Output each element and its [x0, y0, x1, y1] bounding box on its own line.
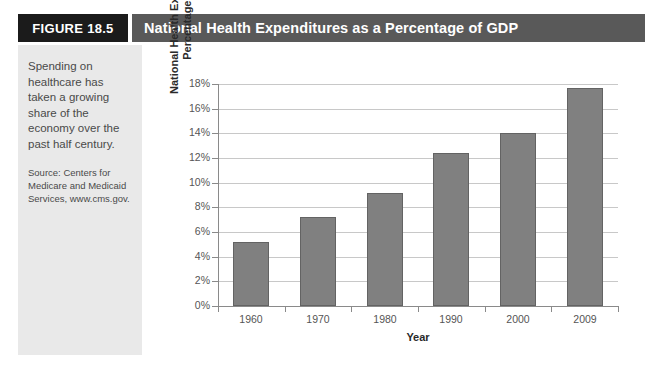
bar: [500, 133, 536, 306]
x-axis-tick: [485, 307, 486, 312]
x-axis-tick: [351, 307, 352, 312]
x-axis-tick: [551, 307, 552, 312]
y-axis-tick-label-wrap: 18%: [170, 84, 210, 85]
plot-area: [218, 84, 618, 306]
bar: [300, 217, 336, 306]
figure-titlebar: National Health Expenditures as a Percen…: [132, 14, 645, 42]
bar: [233, 242, 269, 306]
bar-chart: National Health Expenditures as Percenta…: [142, 45, 645, 355]
y-axis-tick-label-wrap: 2%: [170, 281, 210, 282]
chart-panel: National Health Expenditures as Percenta…: [142, 45, 645, 355]
y-axis-tick-label: 12%: [174, 151, 210, 163]
x-axis-tick: [618, 307, 619, 312]
y-axis-tick-label: 2%: [174, 274, 210, 286]
x-axis-tick: [218, 307, 219, 312]
x-axis-tick-label: 1970: [288, 313, 348, 325]
y-axis-tick-label-wrap: 12%: [170, 158, 210, 159]
y-axis-tick-label: 0%: [174, 299, 210, 311]
x-axis-title: Year: [218, 331, 618, 343]
figure-header: FIGURE 18.5 National Health Expenditures…: [18, 14, 645, 42]
y-axis-tick-label: 10%: [174, 176, 210, 188]
y-axis-tick-label-wrap: 16%: [170, 109, 210, 110]
y-axis-tick-label: 8%: [174, 200, 210, 212]
x-axis-tick-label: 1960: [221, 313, 281, 325]
x-axis-tick-label: 1990: [421, 313, 481, 325]
figure-sidebar: Spending on healthcare has taken a growi…: [18, 45, 142, 355]
y-axis-tick-label-wrap: 4%: [170, 257, 210, 258]
y-axis-tick-label-wrap: 14%: [170, 133, 210, 134]
figure-caption: Spending on healthcare has taken a growi…: [28, 59, 130, 152]
y-axis-tick-label: 14%: [174, 126, 210, 138]
x-axis-tick-label: 2000: [488, 313, 548, 325]
y-axis-tick-label: 4%: [174, 250, 210, 262]
y-axis-tick-label: 6%: [174, 225, 210, 237]
figure-body: Spending on healthcare has taken a growi…: [18, 45, 645, 355]
x-axis-tick-label: 1980: [355, 313, 415, 325]
bar: [433, 153, 469, 306]
x-axis-tick: [418, 307, 419, 312]
bar: [367, 193, 403, 306]
bar: [567, 88, 603, 306]
figure-title: National Health Expenditures as a Percen…: [132, 20, 518, 36]
y-axis-tick-label-wrap: 10%: [170, 183, 210, 184]
figure-number-tab: FIGURE 18.5: [18, 14, 128, 42]
y-axis-tick-label-wrap: 6%: [170, 232, 210, 233]
y-axis-tick-label-wrap: 8%: [170, 207, 210, 208]
y-axis-tick-label-wrap: 0%: [170, 306, 210, 307]
x-axis-tick-label: 2009: [555, 313, 615, 325]
y-axis-tick-label: 18%: [174, 77, 210, 89]
figure-block: FIGURE 18.5 National Health Expenditures…: [18, 14, 645, 355]
y-axis-tick-label: 16%: [174, 102, 210, 114]
x-axis-tick: [285, 307, 286, 312]
figure-source: Source: Centers for Medicare and Medicai…: [28, 166, 130, 205]
